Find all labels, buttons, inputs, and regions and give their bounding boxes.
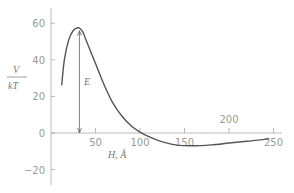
y-tick-label: 0: [39, 128, 45, 139]
y-tick-label: 20: [32, 91, 45, 102]
chart: 6040200−2050100150200250 V kT E H, Å: [0, 0, 294, 193]
y-tick-label: 40: [32, 55, 45, 66]
y-tick-label: −20: [24, 165, 45, 176]
x-axis-label: H, Å: [107, 149, 127, 160]
x-tick-label: 200: [219, 114, 238, 125]
y-label-numerator: V: [13, 64, 21, 75]
energy-barrier-arrow: [77, 31, 81, 133]
x-tick-label: 50: [89, 137, 102, 148]
tick-labels: 6040200−2050100150200250: [24, 18, 283, 175]
y-tick-label: 60: [32, 18, 45, 29]
potential-curve: [62, 28, 269, 146]
x-tick-label: 100: [130, 137, 149, 148]
y-axis-label: V kT: [7, 64, 27, 91]
y-label-denominator: kT: [8, 80, 19, 91]
axes: [51, 8, 282, 185]
barrier-label: E: [83, 76, 90, 87]
